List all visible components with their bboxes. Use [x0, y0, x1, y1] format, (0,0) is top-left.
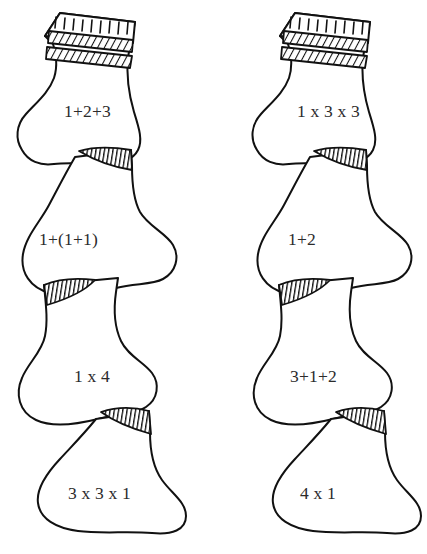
sock-right-1 [252, 13, 375, 164]
sock-label-right-2: 1+2 [288, 231, 316, 249]
sock-right-4 [273, 408, 421, 533]
sock-left-3 [19, 278, 157, 425]
sock-outline [273, 411, 421, 533]
sock-label-right-1: 1 x 3 x 3 [297, 103, 360, 121]
sock-outline [257, 150, 411, 295]
sock-left-4 [38, 408, 186, 533]
sock-outline [22, 150, 176, 295]
sock-label-left-2: 1+(1+1) [39, 231, 98, 249]
sock-left-2 [22, 148, 176, 296]
figure-canvas: 1+2+3 1+(1+1) 1 x 4 3 x 3 x 1 1 x 3 x 3 … [0, 0, 427, 554]
sock-label-left-3: 1 x 4 [74, 368, 110, 386]
sock-outline [38, 411, 186, 533]
sock-chain-drawing [0, 0, 427, 554]
sock-label-right-4: 4 x 1 [300, 485, 336, 503]
sock-right-2 [257, 148, 411, 296]
sock-outline [254, 278, 392, 425]
sock-left-1 [17, 13, 140, 164]
sock-label-left-1: 1+2+3 [64, 103, 111, 121]
sock-right-3 [254, 278, 392, 425]
sock-label-right-3: 3+1+2 [290, 368, 337, 386]
sock-outline [19, 278, 157, 425]
sock-label-left-4: 3 x 3 x 1 [68, 485, 131, 503]
